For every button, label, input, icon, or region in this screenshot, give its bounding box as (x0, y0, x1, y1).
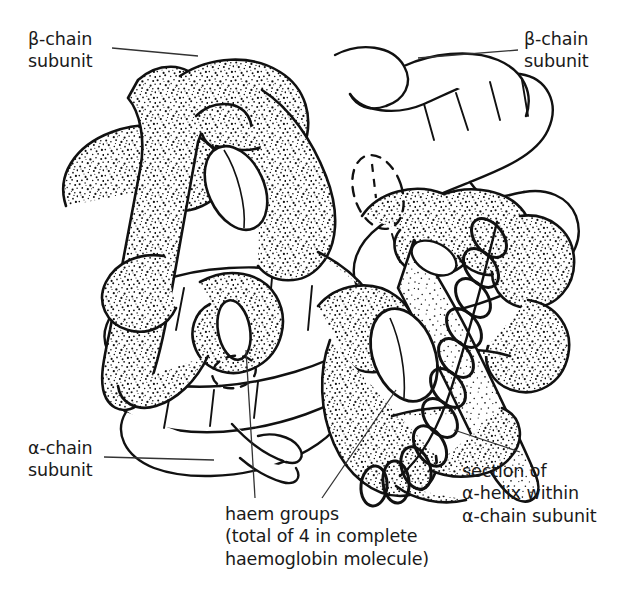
label-haem-line1: haem groups (225, 504, 339, 524)
label-beta-left-line1: β-chain (28, 29, 92, 49)
label-helix-line3: α-chain subunit (462, 506, 597, 526)
label-beta-chain-right: β-chain subunit (524, 28, 589, 73)
label-alpha-chain-left: α-chain subunit (28, 437, 93, 482)
label-helix-line1: section of (462, 461, 546, 481)
label-alpha-left-line1: α-chain (28, 438, 93, 458)
label-haem-line2: (total of 4 in complete (225, 526, 418, 546)
label-beta-chain-left: β-chain subunit (28, 28, 93, 73)
label-beta-right-line1: β-chain (524, 29, 588, 49)
label-beta-right-line2: subunit (524, 51, 589, 71)
label-alpha-helix: section of α-helix within α-chain subuni… (462, 460, 597, 527)
label-haem-groups: haem groups (total of 4 in complete haem… (225, 503, 429, 570)
label-alpha-left-line2: subunit (28, 460, 93, 480)
label-haem-line3: haemoglobin molecule) (225, 549, 429, 569)
label-beta-left-line2: subunit (28, 51, 93, 71)
label-helix-line2: α-helix within (462, 483, 579, 503)
